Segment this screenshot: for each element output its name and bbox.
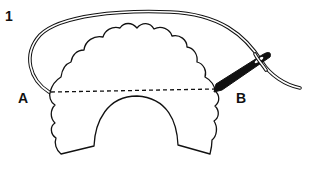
step-number: 1 (5, 8, 13, 24)
sewing-diagram: 1 A B (0, 0, 317, 176)
point-a-label: A (18, 90, 28, 106)
scalloped-fabric-piece (50, 24, 219, 155)
point-b-label: B (236, 90, 246, 106)
needle (214, 53, 271, 92)
